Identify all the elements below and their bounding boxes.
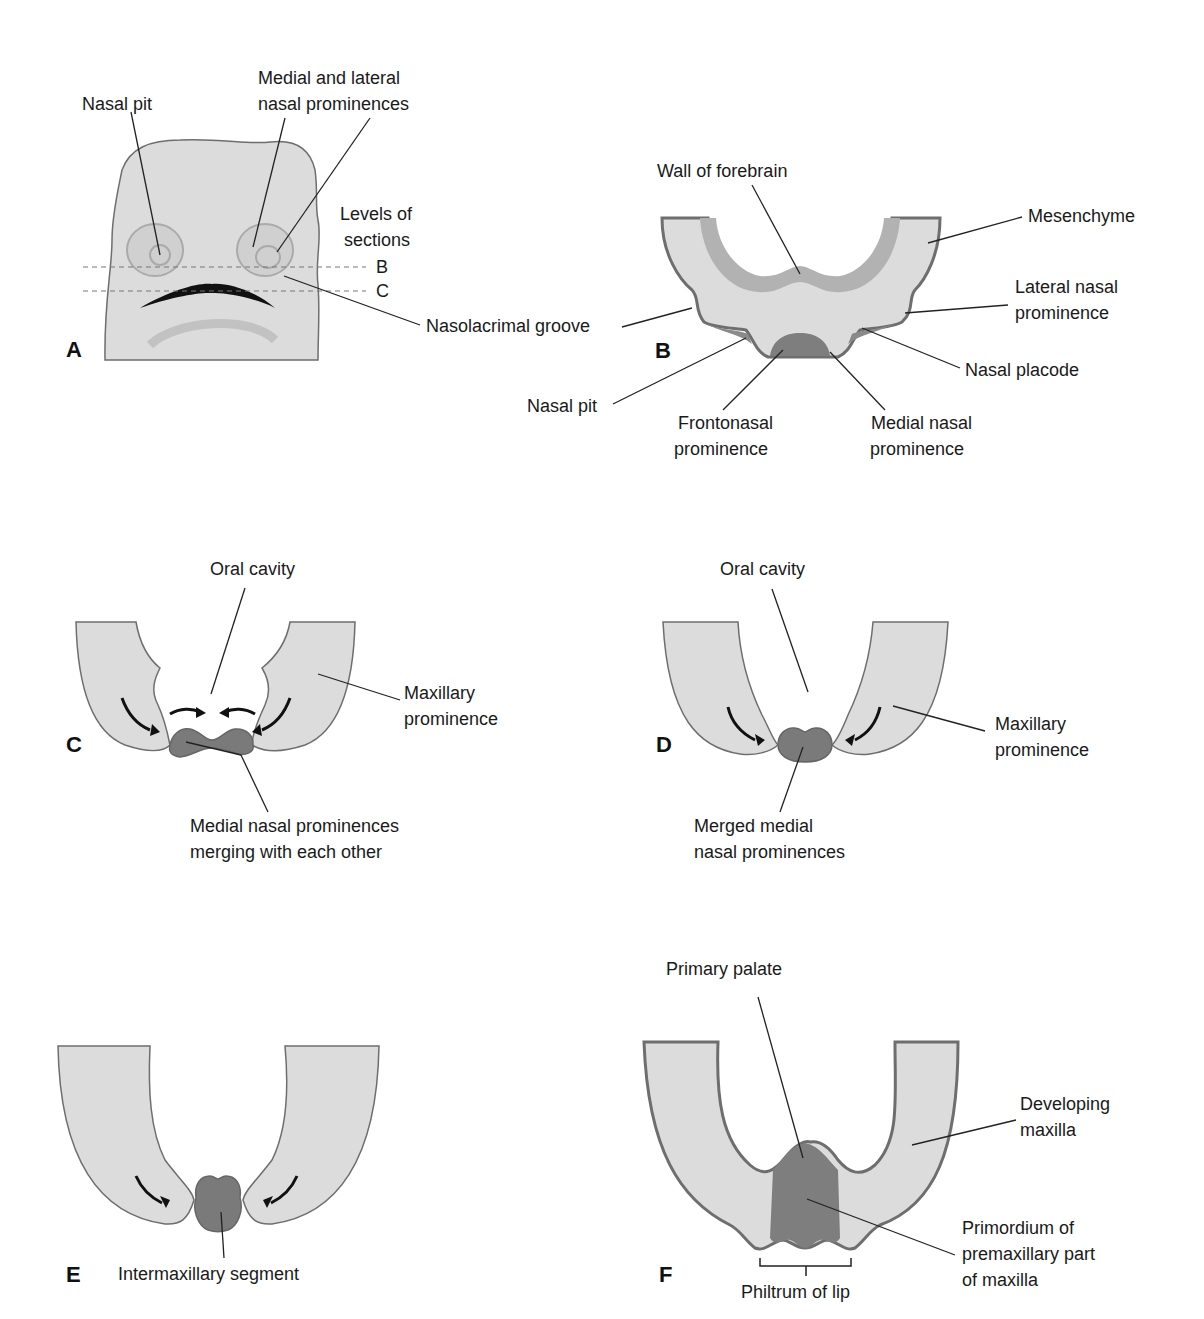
maxillary-left-e bbox=[58, 1046, 194, 1224]
maxillary-right-e bbox=[243, 1046, 379, 1224]
panel-d: Oral cavity Maxillary prominence Merged … bbox=[656, 559, 1089, 862]
label-maxillary-c-1: Maxillary bbox=[404, 683, 475, 703]
label-lateral-nasal-1: Lateral nasal bbox=[1015, 277, 1118, 297]
medial-nasal-c bbox=[169, 729, 253, 757]
philtrum-bracket bbox=[760, 1258, 851, 1276]
label-mesenchyme: Mesenchyme bbox=[1028, 206, 1135, 226]
embryology-figure: Nasal pit Medial and lateral nasal promi… bbox=[0, 0, 1204, 1319]
panel-letter-d: D bbox=[656, 732, 672, 757]
panel-f: Primary palate Developing maxilla Primor… bbox=[644, 959, 1110, 1302]
panel-letter-c: C bbox=[66, 732, 82, 757]
label-maxillary-c-2: prominence bbox=[404, 709, 498, 729]
label-developing-1: Developing bbox=[1020, 1094, 1110, 1114]
label-merging-2: merging with each other bbox=[190, 842, 382, 862]
intermaxillary-segment-e bbox=[195, 1176, 242, 1232]
label-developing-2: maxilla bbox=[1020, 1120, 1077, 1140]
label-level-b: B bbox=[376, 257, 388, 277]
label-medial-nasal-1: Medial nasal bbox=[871, 413, 972, 433]
panel-a: Nasal pit Medial and lateral nasal promi… bbox=[66, 68, 590, 362]
panel-c: Oral cavity Maxillary prominence Medial … bbox=[66, 559, 498, 862]
label-merging-1: Medial nasal prominences bbox=[190, 816, 399, 836]
label-primordium-3: of maxilla bbox=[962, 1270, 1039, 1290]
label-merged-2: nasal prominences bbox=[694, 842, 845, 862]
merged-medial-nasal-d bbox=[778, 728, 832, 762]
label-nasal-pit-b: Nasal pit bbox=[527, 396, 597, 416]
label-oral-cavity-c: Oral cavity bbox=[210, 559, 295, 579]
panel-b: Wall of forebrain Mesenchyme Lateral nas… bbox=[527, 161, 1135, 459]
maxillary-right-d bbox=[832, 622, 948, 755]
label-frontonasal-1: Frontonasal bbox=[678, 413, 773, 433]
maxillary-right-c bbox=[252, 622, 355, 751]
label-lateral-nasal-2: prominence bbox=[1015, 303, 1109, 323]
label-maxillary-d-1: Maxillary bbox=[995, 714, 1066, 734]
label-maxillary-d-2: prominence bbox=[995, 740, 1089, 760]
label-philtrum: Philtrum of lip bbox=[741, 1282, 850, 1302]
label-nasal-pit-a: Nasal pit bbox=[82, 94, 152, 114]
maxillary-left-d bbox=[663, 622, 778, 755]
panel-letter-b: B bbox=[655, 338, 671, 363]
label-medial-nasal-2: prominence bbox=[870, 439, 964, 459]
label-wall-forebrain: Wall of forebrain bbox=[657, 161, 787, 181]
panel-letter-f: F bbox=[659, 1262, 672, 1287]
label-primordium-1: Primordium of bbox=[962, 1218, 1075, 1238]
label-levels-1: Levels of bbox=[340, 204, 413, 224]
label-intermaxillary: Intermaxillary segment bbox=[118, 1264, 299, 1284]
panel-letter-a: A bbox=[66, 337, 82, 362]
panel-e: Intermaxillary segment E bbox=[58, 1046, 379, 1287]
label-oral-cavity-d: Oral cavity bbox=[720, 559, 805, 579]
label-merged-1: Merged medial bbox=[694, 816, 813, 836]
label-level-c: C bbox=[376, 281, 389, 301]
label-frontonasal-2: prominence bbox=[674, 439, 768, 459]
label-medial-lateral-2: nasal prominences bbox=[258, 94, 409, 114]
panel-letter-e: E bbox=[66, 1262, 81, 1287]
label-levels-2: sections bbox=[344, 230, 410, 250]
label-primordium-2: premaxillary part bbox=[962, 1244, 1095, 1264]
forebrain-wall bbox=[700, 218, 900, 292]
label-nasolacrimal: Nasolacrimal groove bbox=[426, 316, 590, 336]
label-nasal-placode: Nasal placode bbox=[965, 360, 1079, 380]
label-medial-lateral-1: Medial and lateral bbox=[258, 68, 400, 88]
label-primary-palate: Primary palate bbox=[666, 959, 782, 979]
